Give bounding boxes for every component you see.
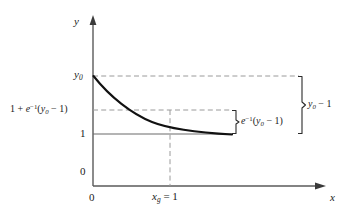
y-tick-zero: 0 [80,166,86,177]
decay-curve [94,76,233,135]
y-axis-label: y [74,16,79,27]
inner-bracket [232,111,239,134]
x-tick-zero: 0 [89,192,95,203]
y-tick-mid-expression: 1 + e−1(y0 − 1) [10,104,68,116]
x-axis-arrowhead [315,182,326,189]
outer-bracket-label: y0 − 1 [308,99,332,111]
y-tick-y0: y0 [74,69,83,82]
x-tick-xg: xg = 1 [152,191,178,204]
y-tick-one: 1 [80,128,86,139]
x-axis-label: x [330,192,335,203]
y-axis-arrowhead [90,15,97,25]
figure-container: y x y0 1 + e−1(y0 − 1) 1 0 0 xg = 1 e−1(… [0,0,344,217]
outer-bracket [298,77,306,134]
inner-bracket-label: e−1(y0 − 1) [241,116,283,128]
